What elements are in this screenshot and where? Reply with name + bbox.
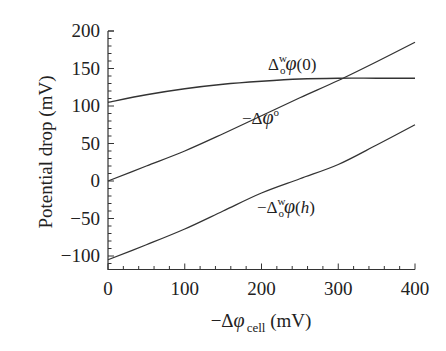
x-tick-label: 100 bbox=[171, 278, 200, 299]
label-neg-delta-phi-standard: −Δφo bbox=[242, 106, 280, 129]
curve-neg-delta-phi-h bbox=[108, 125, 415, 260]
y-tick-label: 50 bbox=[81, 133, 100, 154]
x-tick-label: 0 bbox=[103, 278, 113, 299]
curve-delta-phi-0 bbox=[108, 78, 415, 102]
line-chart: −100−500501001502000100200300400 Δwoφ(0)… bbox=[0, 0, 446, 351]
axis-spines bbox=[108, 31, 415, 270]
x-tick-label: 200 bbox=[247, 278, 276, 299]
y-tick-label: 200 bbox=[72, 20, 101, 41]
y-tick-label: 0 bbox=[91, 170, 101, 191]
y-tick-label: 150 bbox=[72, 58, 101, 79]
y-tick-label: 100 bbox=[72, 95, 101, 116]
curves bbox=[108, 42, 415, 260]
series-labels: Δwoφ(0)−Δφo−Δwoφ(h) bbox=[242, 52, 316, 219]
y-tick-label: −50 bbox=[70, 208, 100, 229]
y-axis-title: Potential drop (mV) bbox=[35, 75, 57, 228]
y-tick-label: −100 bbox=[61, 245, 100, 266]
label-neg-delta-phi-h: −Δwoφ(h) bbox=[257, 195, 315, 219]
x-axis-title: −Δφcell (mV) bbox=[211, 309, 312, 335]
label-delta-phi-0: Δwoφ(0) bbox=[268, 52, 316, 76]
x-tick-label: 300 bbox=[324, 278, 353, 299]
x-tick-label: 400 bbox=[401, 278, 430, 299]
